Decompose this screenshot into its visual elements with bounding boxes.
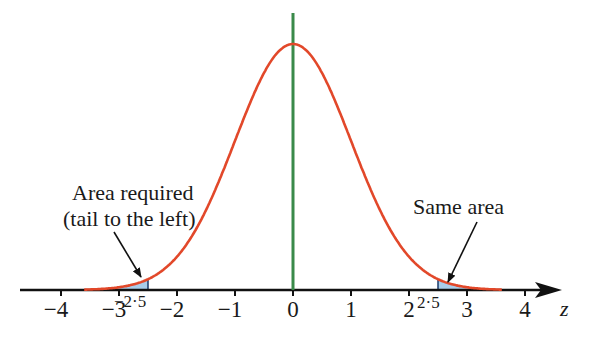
right-boundary-label: 2·5 [417,293,440,312]
right-annotation-arrow [448,222,477,282]
tick-label: −1 [218,297,242,322]
annotation-right: Same area [413,194,504,219]
normal-curve-diagram: −4−3−2−101234 −2·5 2·5 z Area required (… [0,0,592,339]
tick-label: 4 [519,297,531,322]
tick-label: −4 [44,297,69,322]
axis-variable-label: z [559,296,569,321]
left-boundary-label: −2·5 [114,292,146,311]
annotation-left-line1: Area required [72,180,194,205]
tick-label: 1 [345,297,357,322]
tick-label: −2 [160,297,184,322]
annotation-left-line2: (tail to the left) [63,206,196,231]
tick-label: 0 [287,297,299,322]
tick-label: 3 [461,297,473,322]
left-annotation-arrow [114,232,141,277]
tick-label: 2 [403,297,415,322]
